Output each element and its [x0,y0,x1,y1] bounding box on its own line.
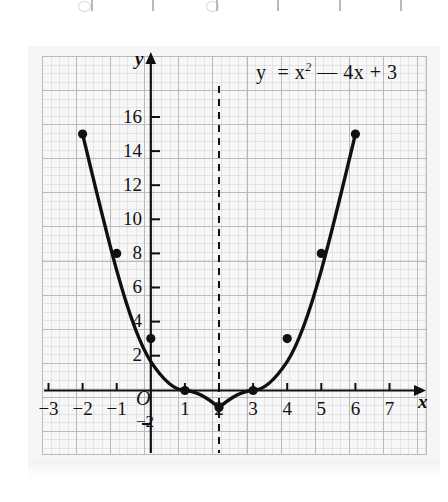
x-tick-label: 7 [380,398,400,420]
equation-label: y = x2 — 4x + 3 [256,60,398,84]
x-axis-label: x [418,391,428,413]
x-tick-label: 5 [311,398,331,420]
y-tick-label: 10 [106,208,142,230]
x-tick-label: 4 [277,398,297,420]
x-tick-label: −2 [68,398,98,420]
y-tick-label: 6 [106,276,142,298]
y-tick-label: 16 [106,106,142,128]
y-tick-label: 14 [106,140,142,162]
y-tick-label: −2 [118,412,154,432]
scan-artifact-tick [152,0,154,11]
x-tick-label: 3 [243,398,263,420]
scan-artifact-tick [277,0,279,11]
y-tick-label: 12 [106,174,142,196]
y-tick-label: 4 [106,310,142,332]
graph-grid [42,56,427,455]
scan-artifact-tick [216,0,218,11]
y-tick-label: 8 [106,242,142,264]
x-tick-label: 2 [209,398,229,420]
x-tick-label: 6 [345,398,365,420]
figure-paper-shadow [28,460,440,480]
scan-artifact-blob [206,1,219,12]
x-tick-label: 1 [175,398,195,420]
scan-artifact-strip [0,0,448,14]
scan-artifact-tick [400,0,402,11]
scan-artifact-tick [91,0,93,11]
scan-artifact-blob [78,1,91,12]
origin-label: O [136,387,150,410]
scan-artifact-tick [339,0,341,11]
x-tick-label: −3 [34,398,64,420]
y-axis-label: y [135,48,143,70]
y-tick-label: 2 [106,344,142,366]
